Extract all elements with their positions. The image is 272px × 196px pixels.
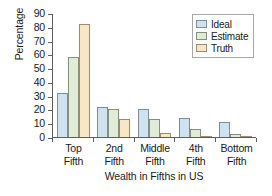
legend-label: Ideal: [211, 19, 232, 30]
bar-group: [94, 14, 135, 137]
x-category-label-line: Top: [53, 142, 94, 155]
y-tick-label: 10: [34, 117, 45, 129]
bar: [201, 136, 212, 137]
bar: [57, 93, 68, 137]
x-category-label-line: Fifth: [135, 155, 176, 168]
chart-legend: IdealEstimateTruth: [192, 14, 254, 58]
bar: [79, 24, 90, 137]
legend-swatch: [196, 44, 207, 52]
bar: [241, 136, 252, 137]
y-tick: 60: [48, 55, 52, 56]
bar: [160, 133, 171, 137]
legend-swatch: [196, 20, 207, 28]
y-tick-label: 0: [39, 131, 45, 143]
bar: [108, 109, 119, 137]
bar: [138, 109, 149, 137]
bar: [230, 134, 241, 137]
y-tick-label: 70: [34, 35, 45, 47]
x-category-label-line: Bottom: [216, 142, 257, 155]
y-tick-label: 30: [34, 90, 45, 102]
x-category-label-line: Fifth: [216, 155, 257, 168]
bar-group: [134, 14, 175, 137]
y-axis-title: Percentage: [13, 0, 25, 84]
y-tick-label: 80: [34, 21, 45, 33]
y-tick: 50: [48, 69, 52, 70]
y-tick-label: 40: [34, 76, 45, 88]
bar: [97, 107, 108, 137]
x-category-label: BottomFifth: [216, 142, 257, 167]
y-tick: 10: [48, 124, 52, 125]
y-tick: 70: [48, 42, 52, 43]
x-axis-category-labels: TopFifth2ndFifthMiddleFifth4thFifthBotto…: [53, 142, 257, 167]
legend-item: Ideal: [196, 18, 248, 30]
y-tick: 90: [48, 14, 52, 15]
x-category-label-line: 4th: [175, 142, 216, 155]
x-category-label: 4thFifth: [175, 142, 216, 167]
bar-group: [53, 14, 94, 137]
legend-label: Estimate: [211, 31, 248, 42]
x-category-label-line: Fifth: [175, 155, 216, 168]
x-axis-line: [52, 137, 256, 138]
x-category-label: MiddleFifth: [135, 142, 176, 167]
bar: [219, 122, 230, 137]
bar-chart: Percentage 0102030405060708090 TopFifth2…: [0, 0, 272, 196]
y-tick-label: 50: [34, 62, 45, 74]
y-tick-label: 20: [34, 103, 45, 115]
x-category-label: 2ndFifth: [94, 142, 135, 167]
bar: [68, 57, 79, 137]
y-tick: 40: [48, 83, 52, 84]
x-category-label: TopFifth: [53, 142, 94, 167]
y-tick-label: 90: [34, 7, 45, 19]
y-tick-label: 60: [34, 48, 45, 60]
x-category-label-line: Fifth: [94, 155, 135, 168]
legend-swatch: [196, 32, 207, 40]
x-axis-title: Wealth in Fifths in US: [52, 170, 256, 182]
y-tick: 80: [48, 28, 52, 29]
legend-label: Truth: [211, 43, 233, 54]
legend-item: Estimate: [196, 30, 248, 42]
x-category-label-line: Middle: [135, 142, 176, 155]
y-tick: 30: [48, 97, 52, 98]
bar: [119, 119, 130, 137]
bar: [179, 118, 190, 137]
legend-item: Truth: [196, 42, 248, 54]
y-tick: 20: [48, 110, 52, 111]
x-category-label-line: Fifth: [53, 155, 94, 168]
x-category-label-line: 2nd: [94, 142, 135, 155]
bar: [149, 119, 160, 137]
bar: [190, 129, 201, 137]
